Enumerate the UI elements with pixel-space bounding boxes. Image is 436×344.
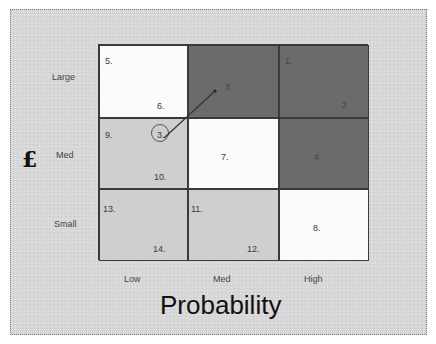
item-label: 5. <box>105 56 113 66</box>
circled-item-label: 3. <box>157 130 165 140</box>
row-label-med: Med <box>56 150 74 160</box>
cell-small-low: 13. 14. <box>99 189 188 261</box>
item-label: 10. <box>154 172 167 182</box>
cell-small-med: 11. 12. <box>188 189 279 261</box>
item-label: 2 <box>342 100 347 110</box>
col-label-med: Med <box>213 274 231 284</box>
cell-med-low: 9. 3. 10. <box>99 118 188 189</box>
col-label-high: High <box>304 274 323 284</box>
cell-large-low: 5. 6. <box>99 45 188 118</box>
x-axis-title: Probability <box>160 290 281 321</box>
item-label: 9. <box>105 130 113 140</box>
item-label: 4 <box>314 152 319 162</box>
impact-axis-symbol: £ <box>22 146 37 172</box>
item-label: 11. <box>191 204 203 214</box>
row-label-large: Large <box>52 72 75 82</box>
cell-large-med: 3 <box>188 45 279 118</box>
cell-large-high: 1. 2 <box>279 45 369 118</box>
row-label-small: Small <box>54 219 77 229</box>
item-label: 3 <box>225 82 230 92</box>
risk-grid: 5. 6. 3 1. 2 9. 3. 10. 7. 4 13. 14. 11. <box>98 44 368 260</box>
cell-small-high: 8. <box>279 189 369 261</box>
item-label: 6. <box>157 101 165 111</box>
item-label: 7. <box>221 152 229 162</box>
cell-med-med: 7. <box>188 118 279 189</box>
item-label: 13. <box>103 204 116 214</box>
item-label: 14. <box>153 244 166 254</box>
item-label: 8. <box>313 223 321 233</box>
cell-med-high: 4 <box>279 118 369 189</box>
col-label-low: Low <box>124 274 141 284</box>
item-label: 12. <box>247 244 260 254</box>
item-label: 1. <box>285 56 293 66</box>
risk-matrix-slide: £ Large Med Small 5. 6. 3 1. 2 9. 3. 10.… <box>0 0 436 344</box>
